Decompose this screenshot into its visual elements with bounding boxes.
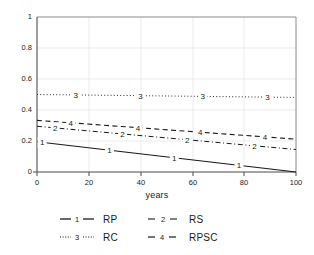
series-rc-marker-1: 3 (74, 91, 79, 100)
series-rpsc-marker-3: 4 (198, 128, 203, 137)
legend-label-rpsc: RPSC (189, 232, 218, 243)
series-rpsc-marker-1: 4 (68, 119, 73, 128)
series-rc: 3 3 3 3 (37, 89, 296, 102)
series-rc-marker-2: 3 (138, 92, 143, 101)
legend-label-rp: RP (103, 214, 117, 225)
xtick-label-80: 80 (234, 178, 254, 187)
x-axis-title: years (0, 190, 314, 200)
xtick-label-40: 40 (131, 178, 151, 187)
series-rpsc-marker-4: 4 (263, 133, 268, 142)
tick-marks (33, 172, 296, 176)
legend-item-rp[interactable]: 1 RP (60, 214, 146, 225)
svg-text:1: 1 (75, 215, 79, 224)
series-rs-marker-2: 2 (120, 130, 125, 139)
legend-sample-dashdot-icon: 2 (146, 214, 186, 224)
series-rs-marker-4: 2 (252, 142, 257, 151)
legend-sample-dashed-icon: 4 (146, 232, 186, 242)
ytick-label-1: 1 (10, 12, 32, 21)
legend-item-rpsc[interactable]: 4 RPSC (146, 232, 246, 243)
xtick-label-20: 20 (79, 178, 99, 187)
xtick-label-100: 100 (286, 178, 306, 187)
series-rp-marker-2: 1 (107, 146, 112, 155)
series-rc-marker-3: 3 (201, 92, 206, 101)
series-rpsc-marker-2: 4 (136, 124, 141, 133)
ytick-label-0.6: 0.6 (10, 74, 32, 83)
ytick-label-0.8: 0.8 (10, 43, 32, 52)
legend-item-rc[interactable]: 3 RC (60, 232, 146, 243)
series-rpsc: 4 4 4 4 (37, 117, 296, 142)
legend-sample-dotted-icon: 3 (60, 232, 100, 242)
series-rp-marker-1: 1 (40, 138, 45, 147)
legend-item-rs[interactable]: 2 RS (146, 214, 246, 225)
svg-text:3: 3 (75, 233, 79, 242)
xtick-label-60: 60 (183, 178, 203, 187)
chart-figure: 3 3 3 3 4 4 4 4 2 2 2 2 (0, 0, 314, 255)
series-rp-marker-3: 1 (172, 154, 177, 163)
series-rs-marker-3: 2 (185, 136, 190, 145)
series-rs-marker-1: 2 (53, 124, 58, 133)
svg-text:2: 2 (161, 215, 165, 224)
legend-sample-solid-icon: 1 (60, 214, 100, 224)
ytick-label-0: 0 (10, 167, 32, 176)
ytick-label-0.4: 0.4 (10, 105, 32, 114)
series-rp-marker-4: 1 (237, 161, 242, 170)
legend-label-rs: RS (189, 214, 203, 225)
legend-label-rc: RC (103, 232, 118, 243)
series-rpsc-line (37, 120, 296, 139)
xtick-label-0: 0 (27, 178, 47, 187)
chart-legend: 1 RP 2 RS 3 (60, 210, 260, 246)
svg-text:4: 4 (160, 233, 164, 242)
ytick-label-0.2: 0.2 (10, 136, 32, 145)
series-rc-marker-4: 3 (265, 93, 270, 102)
